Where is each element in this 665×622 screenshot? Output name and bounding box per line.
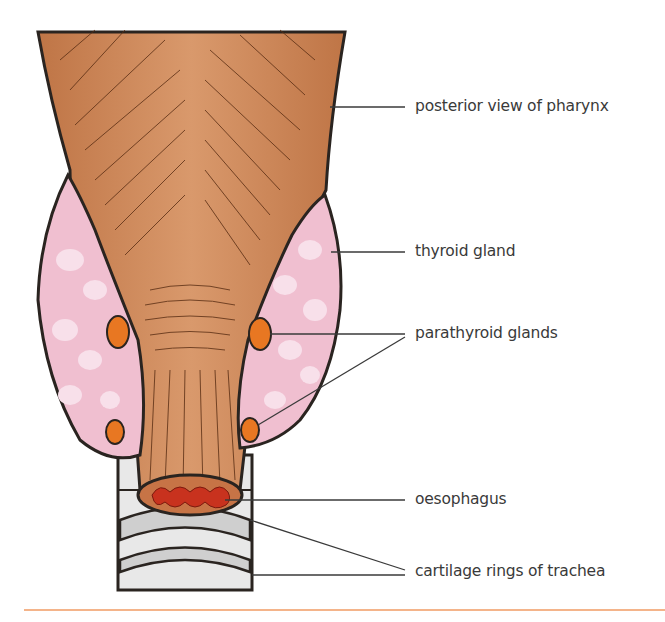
divider-rule (24, 609, 665, 611)
pharynx-illustration (0, 0, 665, 622)
oesophagus (138, 475, 242, 515)
label-trachea: cartilage rings of trachea (415, 562, 605, 580)
label-pharynx: posterior view of pharynx (415, 97, 609, 115)
label-parathyroid-glands: parathyroid glands (415, 324, 558, 342)
label-oesophagus: oesophagus (415, 490, 506, 508)
anatomy-figure: posterior view of pharynx thyroid gland … (0, 0, 665, 622)
label-thyroid-gland: thyroid gland (415, 242, 515, 260)
